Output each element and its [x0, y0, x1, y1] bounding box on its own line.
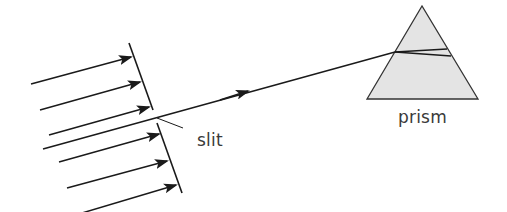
slit-label: slit [197, 130, 223, 150]
barrier-lower [157, 123, 182, 193]
slit-pointer-line [157, 118, 183, 128]
beam-arrow [220, 91, 248, 100]
slit-prism-diagram [0, 0, 507, 212]
barrier-upper [129, 43, 153, 110]
prism-body [367, 6, 478, 99]
incident-ray [59, 134, 159, 162]
incident-ray [40, 82, 140, 110]
prism-label: prism [398, 107, 447, 127]
incident-ray [82, 185, 176, 212]
incident-rays-upper [31, 57, 149, 135]
incident-ray [49, 107, 149, 135]
incident-ray [31, 57, 131, 84]
incident-ray [67, 161, 167, 188]
prism [367, 6, 478, 99]
incident-rays-lower [59, 134, 176, 212]
